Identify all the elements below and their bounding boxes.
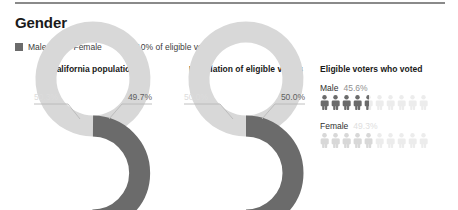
pictogram-header-male: Male 45.6% — [320, 83, 458, 93]
pictogram-label: Female — [320, 121, 348, 131]
chart-eligible-voters-who-voted: Eligible voters who voted Male 45.6% Fem… — [320, 64, 458, 148]
person-icon — [364, 95, 373, 110]
donut-chart-california: 50.3% 49.7% — [14, 80, 172, 210]
donut-slice-male — [246, 126, 293, 210]
donut-chart-eligible: 50.0% 50.0% — [172, 80, 320, 210]
pictogram-label: Male — [320, 83, 338, 93]
person-icon — [353, 95, 362, 110]
slice-label-female: 50.0% — [184, 92, 209, 102]
person-icon — [353, 133, 362, 148]
legend-item-male: Male — [15, 42, 46, 52]
chart-california-population: California population 50.3% 49.7% — [14, 64, 172, 210]
person-icon — [375, 95, 384, 110]
person-icon — [342, 95, 351, 110]
pictogram-group-male: Male 45.6% — [320, 83, 458, 110]
pictogram-group-female: Female 49.3% — [320, 121, 458, 148]
slice-label-male: 49.7% — [128, 92, 153, 102]
person-icon — [408, 133, 417, 148]
person-icon — [331, 133, 340, 148]
pictogram-value: 49.3% — [353, 121, 377, 131]
pictogram-header-female: Female 49.3% — [320, 121, 458, 131]
person-icon — [342, 133, 351, 148]
square-swatch-icon — [15, 43, 23, 51]
donut-slice-male — [92, 126, 139, 210]
donut-svg: 50.0% 50.0% — [172, 80, 320, 206]
slice-label-female: 50.3% — [34, 92, 59, 102]
person-icon — [320, 95, 329, 110]
person-icon — [386, 95, 395, 110]
pictogram-row-male — [320, 95, 458, 110]
person-icon — [320, 133, 329, 148]
pictogram-row-female — [320, 133, 458, 148]
donut-svg: 50.3% 49.7% — [14, 80, 172, 206]
person-icon — [419, 95, 428, 110]
page-title: Gender — [15, 14, 67, 31]
pictogram-value: 45.6% — [343, 83, 367, 93]
slice-label-male: 50.0% — [281, 92, 306, 102]
person-icon — [375, 133, 384, 148]
section-divider — [15, 2, 445, 4]
gender-section: Gender Male Female = 10% of eligible vot… — [0, 0, 458, 210]
person-icon — [419, 133, 428, 148]
donut-slice-female — [199, 32, 293, 126]
person-icon — [364, 133, 373, 148]
chart-population-eligible-voters: Population of eligible voters 50.0% 50.0… — [172, 64, 320, 210]
chart-title: Eligible voters who voted — [320, 64, 458, 74]
person-icon — [386, 133, 395, 148]
person-icon — [397, 95, 406, 110]
person-icon — [397, 133, 406, 148]
person-icon — [331, 95, 340, 110]
person-icon — [408, 95, 417, 110]
